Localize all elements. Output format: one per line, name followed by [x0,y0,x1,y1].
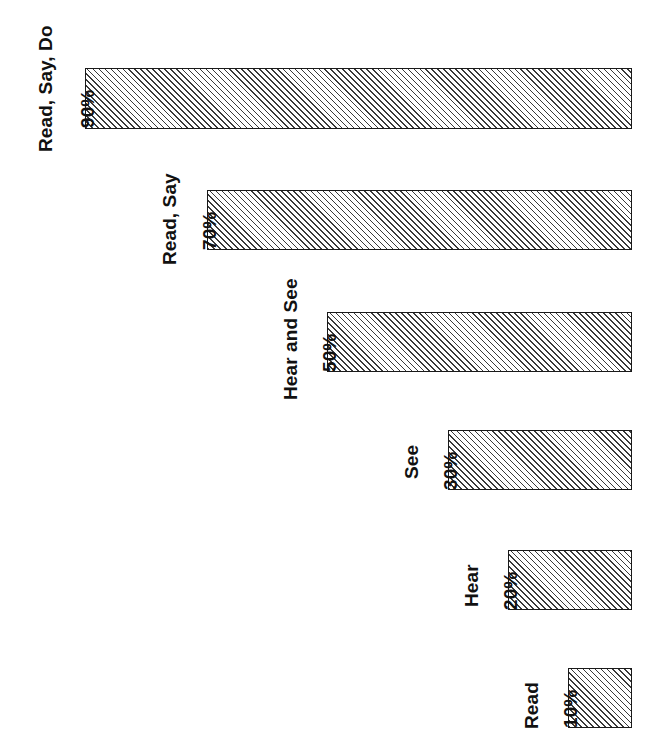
bar-chart: Read, Say, Do90%Read, Say70%Hear and See… [0,0,670,752]
bar-category-label-3: See [402,445,421,479]
bar-value-label-3: 30% [441,452,460,490]
bar-3 [448,430,632,490]
bar-2 [327,312,632,372]
bar-4 [508,550,632,610]
bar-1 [207,190,632,250]
bar-value-label-2: 50% [320,334,339,372]
bar-category-label-4: Hear [462,564,481,607]
bar-value-label-4: 20% [501,572,520,610]
bar-0 [85,68,632,129]
bar-category-label-1: Read, Say [160,173,179,265]
bar-category-label-5: Read [522,682,541,729]
bar-value-label-0: 90% [78,90,97,128]
bar-value-label-1: 70% [200,212,219,250]
bar-value-label-5: 10% [561,690,580,728]
bar-category-label-2: Hear and See [281,278,300,400]
bar-category-label-0: Read, Say, Do [36,25,55,152]
